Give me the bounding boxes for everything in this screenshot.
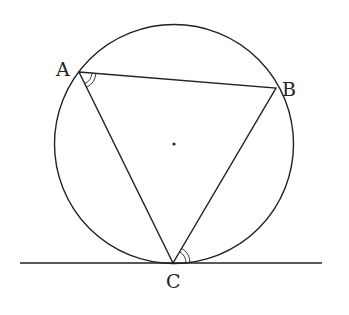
label-a: A <box>55 58 70 80</box>
label-c: C <box>166 270 181 292</box>
angle-mark-a <box>85 73 96 87</box>
triangle-abc <box>79 72 276 263</box>
label-b: B <box>282 78 296 100</box>
center-dot <box>172 142 175 145</box>
geometry-diagram: A B C <box>0 0 349 315</box>
